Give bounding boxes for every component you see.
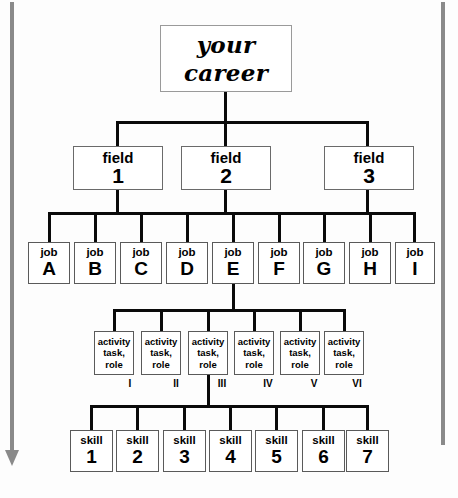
job-id: G (317, 259, 332, 279)
career-hierarchy-diagram: field 1 field 2 field 3 job A job B job … (0, 0, 458, 498)
job-box-H[interactable]: job H (349, 242, 391, 284)
career-title-box[interactable]: your career (160, 25, 292, 92)
job-id: D (180, 259, 194, 279)
activity-box-4[interactable]: activity task, role (234, 331, 274, 375)
connector-activityIII-stem (207, 375, 210, 407)
activity-box-3[interactable]: activity task, role (188, 331, 228, 375)
connector-job-drop-1 (48, 212, 51, 243)
connector-field-stem-1 (116, 190, 119, 214)
job-box-E[interactable]: job E (212, 242, 254, 284)
skill-number: 4 (225, 447, 236, 467)
connector-skill-drop-2 (136, 405, 139, 432)
field-label: field (103, 150, 134, 166)
activity-line-3: role (291, 359, 308, 371)
connector-job-drop-2 (94, 212, 97, 243)
connector-activity-drop-6 (343, 309, 346, 332)
connector-job-drop-5 (232, 212, 235, 243)
connector-activity-drop-1 (113, 309, 116, 332)
activity-line-3: role (105, 359, 122, 371)
skill-number: 3 (179, 447, 190, 467)
activity-line-2: task, (103, 347, 125, 359)
activity-line-2: task, (150, 347, 172, 359)
connector-activity-drop-2 (160, 309, 163, 332)
connector-job-drop-4 (186, 212, 189, 243)
job-box-I[interactable]: job I (395, 242, 435, 284)
connector-career-stem (224, 92, 227, 124)
connector-skill-drop-1 (90, 405, 93, 432)
connector-job-drop-9 (413, 212, 416, 243)
activity-numeral-4: IV (258, 378, 278, 389)
connector-field-drop-1 (116, 121, 119, 147)
skill-number: 6 (318, 447, 329, 467)
connector-job-drop-3 (140, 212, 143, 243)
connector-activity-drop-5 (299, 309, 302, 332)
field-box-3[interactable]: field 3 (324, 146, 414, 190)
skill-number: 2 (132, 447, 143, 467)
activity-line-1: activity (192, 336, 225, 348)
field-number: 2 (220, 165, 232, 186)
connector-job-drop-6 (278, 212, 281, 243)
job-box-G[interactable]: job G (303, 242, 345, 284)
activity-line-1: activity (238, 336, 271, 348)
activity-line-2: task, (333, 347, 355, 359)
job-id: H (363, 259, 377, 279)
job-box-A[interactable]: job A (28, 242, 70, 284)
job-box-F[interactable]: job F (258, 242, 300, 284)
activity-line-1: activity (145, 336, 178, 348)
skill-number: 5 (271, 447, 282, 467)
activity-box-5[interactable]: activity task, role (280, 331, 320, 375)
activity-numeral-2: II (167, 378, 185, 389)
activity-numeral-1: I (122, 378, 138, 389)
connector-field-drop-2 (224, 121, 227, 147)
job-box-C[interactable]: job C (120, 242, 162, 284)
connector-field-stem-2 (224, 190, 227, 214)
field-label: field (211, 150, 242, 166)
field-number: 1 (112, 165, 124, 186)
connector-field-stem-3 (366, 190, 369, 214)
connector-job-drop-8 (369, 212, 372, 243)
activity-line-1: activity (98, 336, 131, 348)
skill-box-3[interactable]: skill 3 (163, 430, 206, 472)
connector-skill-drop-4 (229, 405, 232, 432)
activity-box-1[interactable]: activity task, role (94, 331, 134, 375)
activity-line-3: role (199, 359, 216, 371)
connector-jobE-stem (232, 284, 235, 311)
job-id: A (42, 259, 56, 279)
field-label: field (354, 150, 385, 166)
field-box-1[interactable]: field 1 (73, 146, 163, 190)
activity-line-2: task, (289, 347, 311, 359)
activity-line-1: activity (284, 336, 317, 348)
job-id: F (273, 259, 285, 279)
activity-line-3: role (335, 359, 352, 371)
job-id: I (412, 259, 417, 279)
skill-box-2[interactable]: skill 2 (116, 430, 159, 472)
skill-box-6[interactable]: skill 6 (302, 430, 345, 472)
skill-box-1[interactable]: skill 1 (70, 430, 113, 472)
activity-box-2[interactable]: activity task, role (141, 331, 181, 375)
connector-activity-drop-4 (253, 309, 256, 332)
connector-skill-drop-7 (366, 405, 369, 432)
progression-arrow-down-head (5, 450, 19, 466)
connector-activity-drop-3 (207, 309, 210, 332)
career-title-line-2: career (184, 59, 268, 86)
job-box-B[interactable]: job B (74, 242, 116, 284)
skill-box-7[interactable]: skill 7 (346, 430, 389, 472)
connector-skill-drop-6 (322, 405, 325, 432)
skill-box-4[interactable]: skill 4 (209, 430, 252, 472)
field-number: 3 (363, 165, 375, 186)
progression-arrow-down-shaft (10, 2, 14, 452)
activity-numeral-6: VI (346, 378, 368, 389)
connector-field-drop-3 (366, 121, 369, 147)
activity-numeral-5: V (306, 378, 322, 389)
activity-numeral-3: III (212, 378, 232, 389)
job-box-D[interactable]: job D (166, 242, 208, 284)
activity-line-2: task, (243, 347, 265, 359)
activity-line-1: activity (328, 336, 361, 348)
field-box-2[interactable]: field 2 (181, 146, 271, 190)
activity-box-6[interactable]: activity task, role (324, 331, 364, 375)
skill-number: 7 (362, 447, 373, 467)
connector-field-bus (116, 121, 369, 124)
activity-line-2: task, (197, 347, 219, 359)
skill-box-5[interactable]: skill 5 (255, 430, 298, 472)
connector-activity-bus (113, 309, 346, 312)
